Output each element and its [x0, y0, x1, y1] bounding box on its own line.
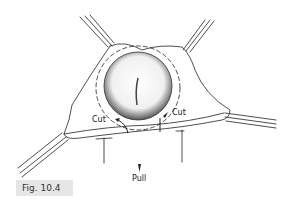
retractor-right: [225, 113, 276, 128]
retractor-left: [18, 133, 68, 177]
illustration: [0, 0, 291, 203]
mucosa: [104, 52, 172, 120]
figure-label: Fig. 10.4: [16, 180, 73, 196]
retractor-top-left: [80, 15, 114, 47]
cut-right-label: Cut: [172, 108, 186, 117]
pull-arrow-icon: [138, 164, 141, 172]
cut-left-label: Cut: [92, 115, 106, 124]
retractor-top-right: [183, 20, 214, 52]
pull-label: Pull: [132, 174, 146, 183]
